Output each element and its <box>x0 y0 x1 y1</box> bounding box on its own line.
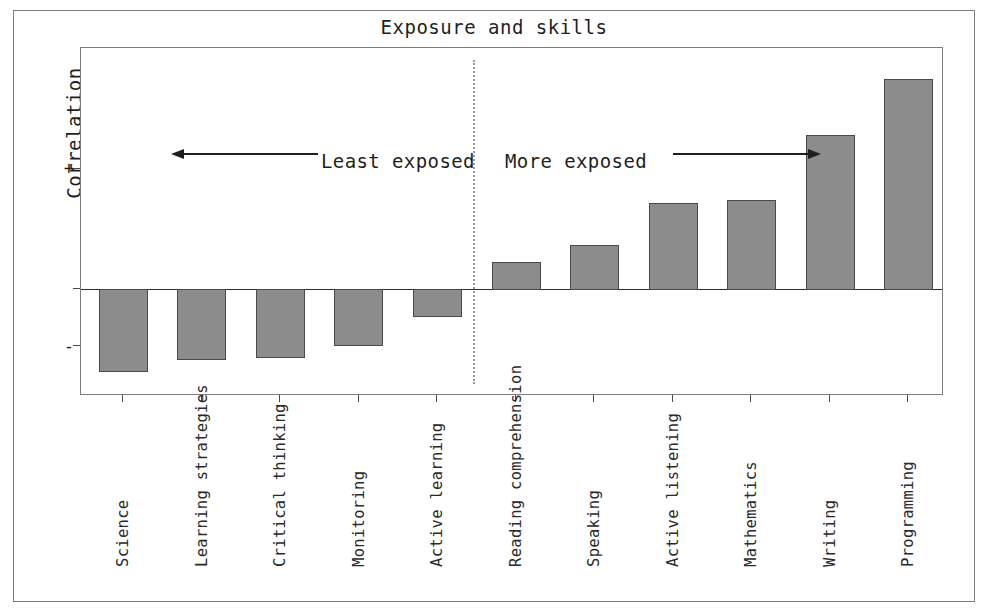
x-tick-mark-3 <box>358 395 359 402</box>
exposure-divider-line <box>473 60 475 384</box>
x-tick-label-programming: Programming <box>901 461 917 567</box>
y-tick-label-positive: + <box>48 160 74 177</box>
bar-monitoring[interactable] <box>334 289 383 346</box>
annotation-least-exposed-label: Least exposed <box>321 152 475 171</box>
plot-inner-clip: Least exposed More exposed <box>81 48 942 394</box>
chart-title: Exposure and skills <box>13 16 975 38</box>
plot-area: Least exposed More exposed <box>80 47 943 395</box>
x-tick-label-monitoring: Monitoring <box>352 471 368 567</box>
x-tick-mark-7 <box>672 395 673 402</box>
x-tick-mark-9 <box>829 395 830 402</box>
x-tick-mark-4 <box>436 395 437 402</box>
x-tick-mark-2 <box>279 395 280 402</box>
x-tick-label-critical-thinking: Critical thinking <box>273 403 289 567</box>
y-tick-mark-negative <box>73 345 80 346</box>
figure-canvas: Exposure and skills Correlation + - <box>0 0 988 611</box>
x-tick-label-learning-strategies: Learning strategies <box>195 384 211 567</box>
bar-science[interactable] <box>99 289 148 372</box>
bar-speaking[interactable] <box>570 245 619 290</box>
x-tick-label-reading-comprehension: Reading comprehension <box>509 365 525 567</box>
x-tick-mark-0 <box>122 395 123 402</box>
annotation-left-arrow-icon <box>171 147 319 161</box>
x-tick-label-science: Science <box>116 500 132 567</box>
bar-active-listening[interactable] <box>649 203 698 290</box>
x-tick-mark-8 <box>750 395 751 402</box>
bar-reading-comprehension[interactable] <box>492 262 541 290</box>
x-tick-label-active-learning: Active learning <box>430 423 446 567</box>
x-tick-label-speaking: Speaking <box>587 490 603 567</box>
x-tick-mark-10 <box>907 395 908 402</box>
y-tick-label-negative: - <box>48 338 74 355</box>
x-tick-label-active-listening: Active listening <box>666 413 682 567</box>
annotation-right-arrow-icon <box>673 147 821 161</box>
bar-mathematics[interactable] <box>727 200 776 290</box>
x-tick-mark-6 <box>593 395 594 402</box>
bar-programming[interactable] <box>884 79 933 290</box>
y-tick-mark-zero <box>73 288 80 289</box>
bar-critical-thinking[interactable] <box>256 289 305 358</box>
bar-active-learning[interactable] <box>413 289 462 317</box>
annotation-more-exposed-label: More exposed <box>505 152 647 171</box>
y-tick-mark-positive <box>73 168 80 169</box>
x-tick-label-writing: Writing <box>823 500 839 567</box>
bar-learning-strategies[interactable] <box>177 289 226 360</box>
x-tick-label-mathematics: Mathematics <box>744 461 760 567</box>
